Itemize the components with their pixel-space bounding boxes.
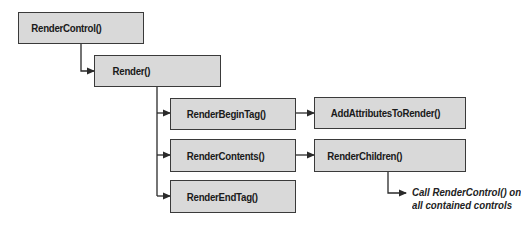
node-label: Render() — [95, 65, 150, 77]
annotation-note: Call RenderControl() on all contained co… — [412, 186, 521, 212]
node-render-end-tag: RenderEndTag() — [170, 180, 296, 213]
node-label: RenderControl() — [19, 22, 102, 34]
node-render-control: RenderControl() — [18, 12, 144, 44]
note-line-2: all contained controls — [412, 199, 521, 212]
node-label: RenderEndTag() — [171, 191, 258, 203]
node-label: AddAttributesToRender() — [315, 107, 440, 119]
node-label: RenderBeginTag() — [171, 108, 266, 120]
node-render-children: RenderChildren() — [314, 139, 466, 172]
node-render-begin-tag: RenderBeginTag() — [170, 98, 296, 130]
node-label: RenderChildren() — [315, 150, 402, 162]
node-render-contents: RenderContents() — [170, 139, 296, 172]
node-label: RenderContents() — [171, 150, 264, 162]
node-render: Render() — [94, 55, 221, 87]
node-add-attributes-to-render: AddAttributesToRender() — [314, 97, 466, 129]
note-line-1: Call RenderControl() on — [412, 186, 521, 199]
